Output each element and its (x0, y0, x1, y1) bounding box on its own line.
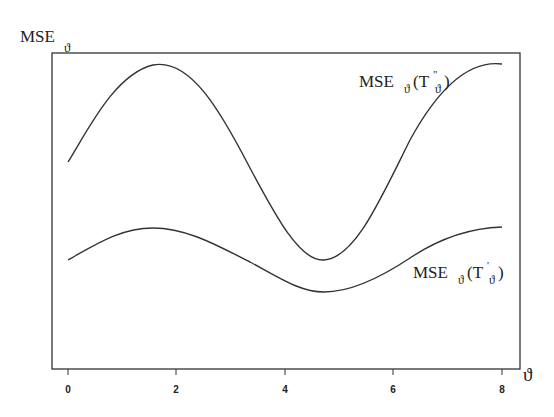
x-tick-label: 2 (173, 384, 179, 395)
svg-text:MSE: MSE (359, 72, 394, 91)
svg-text:MSE: MSE (413, 263, 448, 282)
svg-text:ϑ: ϑ (435, 82, 441, 96)
svg-text:): ) (444, 72, 450, 91)
y-axis-label: MSE (20, 27, 55, 46)
x-axis: 0 2 4 6 8 (65, 369, 505, 395)
svg-text:ϑ: ϑ (458, 273, 464, 287)
series-lower-curve (68, 227, 502, 292)
x-axis-label: ϑ (523, 364, 533, 385)
x-tick-label: 0 (65, 384, 71, 395)
x-tick-label: 6 (390, 384, 396, 395)
svg-text:ϑ: ϑ (404, 82, 410, 96)
svg-text:(T: (T (467, 263, 484, 282)
svg-text:): ) (498, 263, 504, 282)
svg-text:": " (433, 68, 438, 80)
x-tick-label: 4 (282, 384, 288, 395)
svg-text:ϑ: ϑ (489, 273, 495, 287)
svg-text:': ' (487, 259, 489, 271)
chart-canvas: 0 2 4 6 8 ϑ MSE ϑ MSE ϑ (T " ϑ ) MSE ϑ (… (0, 0, 554, 417)
plot-frame (52, 53, 520, 369)
y-axis-label-subscript: ϑ (64, 40, 71, 55)
series-upper-label: MSE ϑ (T " ϑ ) (359, 68, 450, 96)
svg-text:(T: (T (413, 72, 430, 91)
x-tick-label: 8 (499, 384, 505, 395)
series-lower-label: MSE ϑ (T ' ϑ ) (413, 259, 504, 287)
